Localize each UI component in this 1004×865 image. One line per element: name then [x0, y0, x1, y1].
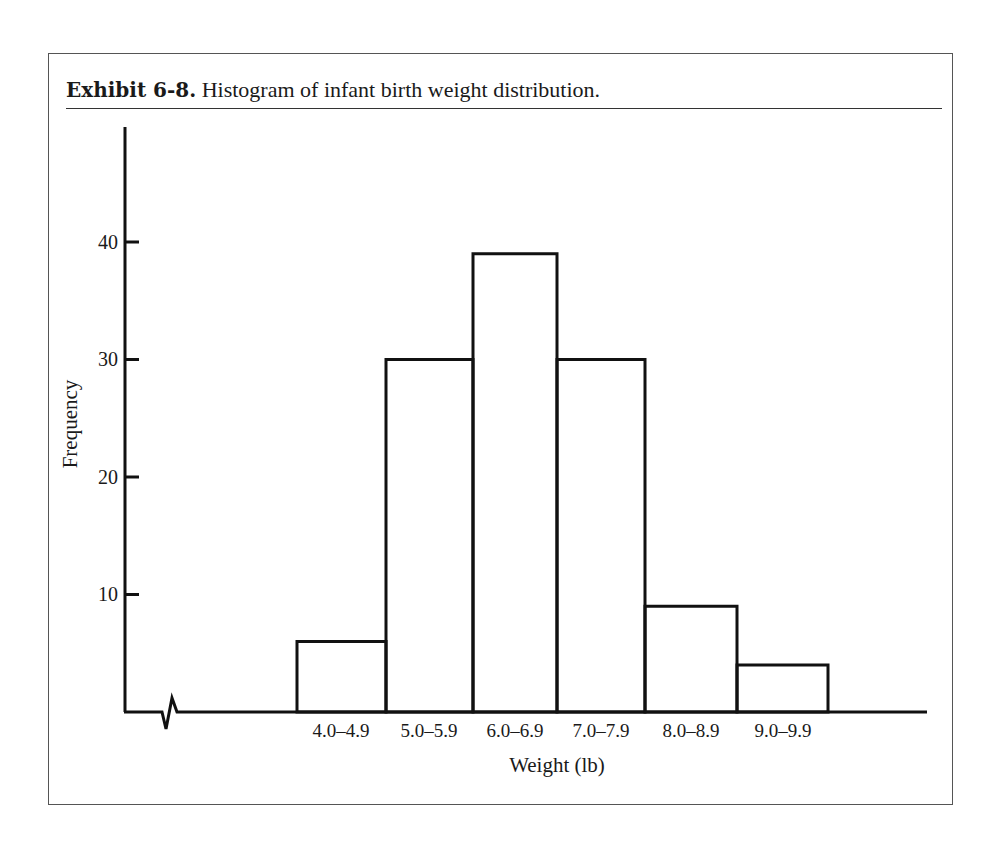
x-tick-label: 7.0–7.9 [573, 720, 630, 742]
x-axis-label: Weight (lb) [509, 753, 605, 778]
histogram-bar [737, 665, 828, 712]
x-tick-label: 6.0–6.9 [487, 720, 544, 742]
histogram-bar [473, 254, 557, 712]
histogram-bar [645, 606, 737, 712]
y-tick-label: 20 [98, 466, 118, 489]
x-tick-label: 8.0–8.9 [663, 720, 720, 742]
y-axis-label: Frequency [58, 380, 83, 469]
y-tick-label: 10 [98, 583, 118, 606]
x-tick-label: 4.0–4.9 [313, 720, 370, 742]
y-ticks [125, 242, 139, 595]
histogram-bar [557, 360, 645, 713]
y-tick-label: 40 [98, 231, 118, 254]
x-tick-label: 9.0–9.9 [755, 720, 812, 742]
histogram-bars [297, 254, 828, 712]
histogram-bar [386, 360, 473, 713]
x-tick-label: 5.0–5.9 [401, 720, 458, 742]
y-tick-label: 30 [98, 348, 118, 371]
histogram-bar [297, 642, 386, 713]
